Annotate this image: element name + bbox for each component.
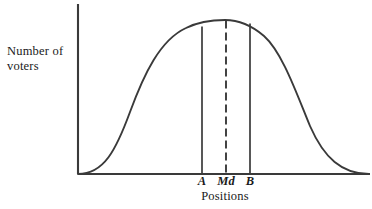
- y-axis-label-line1: Number of: [7, 44, 63, 58]
- bell-curve-figure: Number ofvoters A Md B Positions: [0, 0, 372, 209]
- tick-label-b: B: [230, 174, 270, 189]
- y-axis-label: Number ofvoters: [7, 44, 73, 73]
- bell-curve-path: [78, 20, 369, 174]
- x-axis-label: Positions: [160, 189, 290, 204]
- y-axis-label-line2: voters: [7, 59, 39, 73]
